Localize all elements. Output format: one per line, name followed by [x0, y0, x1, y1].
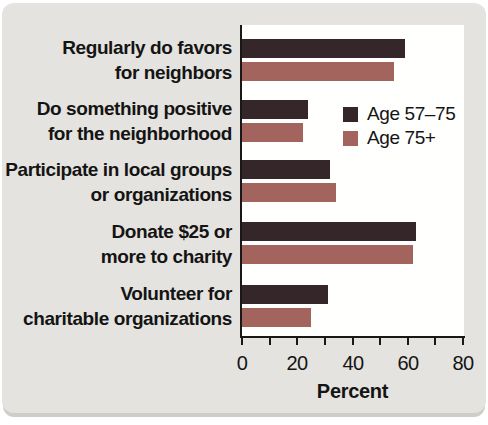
x-axis-tick-label: 80: [441, 352, 485, 375]
x-axis-tick: [407, 338, 409, 345]
bar-age-75plus: [242, 308, 311, 327]
category-label: Regularly do favorsfor neighbors: [0, 35, 232, 85]
x-axis-title: Percent: [242, 380, 463, 403]
legend-row: Age 57–75: [343, 102, 455, 126]
legend-swatch-series-0: [343, 107, 358, 122]
legend-swatch-series-1: [343, 131, 358, 146]
bar-age-75plus: [242, 62, 394, 81]
category-label: Volunteer forcharitable organizations: [0, 281, 232, 331]
bar-age-75plus: [242, 123, 303, 142]
x-axis-tick: [434, 338, 436, 345]
category-label: Participate in local groupsor organizati…: [0, 157, 232, 207]
category-label: Do something positivefor the neighborhoo…: [0, 96, 232, 146]
bar-age-75plus: [242, 245, 413, 264]
legend-row: Age 75+: [343, 126, 455, 150]
bar-age-57-75: [242, 100, 308, 119]
category-label: Donate $25 ormore to charity: [0, 219, 232, 269]
x-axis-tick: [462, 338, 464, 345]
chart-card: Regularly do favorsfor neighborsDo somet…: [2, 3, 486, 413]
x-axis-tick: [324, 338, 326, 345]
x-axis-tick: [352, 338, 354, 345]
x-axis-tick: [269, 338, 271, 345]
legend-label-series-0: Age 57–75: [367, 103, 455, 125]
bar-age-57-75: [242, 160, 330, 179]
x-axis-tick-label: 0: [220, 352, 264, 375]
legend: Age 57–75 Age 75+: [343, 102, 455, 150]
bar-age-57-75: [242, 285, 328, 304]
x-axis-tick: [241, 338, 243, 345]
bar-age-57-75: [242, 39, 405, 58]
legend-label-series-1: Age 75+: [367, 127, 436, 149]
bar-age-75plus: [242, 183, 336, 202]
x-axis-tick-label: 60: [386, 352, 430, 375]
x-axis-tick-label: 40: [331, 352, 375, 375]
bar-age-57-75: [242, 222, 416, 241]
x-axis-tick: [379, 338, 381, 345]
x-axis-tick: [296, 338, 298, 345]
x-axis-tick-label: 20: [275, 352, 319, 375]
